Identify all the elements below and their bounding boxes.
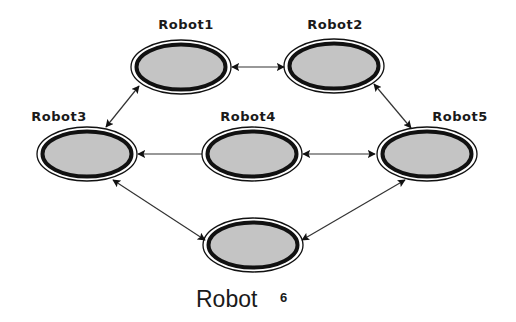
label-robot2: Robot2 — [307, 17, 362, 32]
caption-robot6-number: 6 — [280, 290, 287, 305]
node-robot5 — [377, 127, 477, 181]
robot-network-diagram: Robot1 Robot2 Robot3 Robot4 Robot5 Robot… — [0, 0, 516, 322]
caption-robot6-text: Robot — [196, 286, 258, 312]
edge-robot2-robot5 — [374, 84, 411, 128]
node-robot4 — [202, 127, 302, 181]
node-robot3 — [37, 127, 137, 181]
node-robot2 — [284, 39, 384, 93]
node-robot6 — [203, 218, 303, 272]
label-robot4: Robot4 — [220, 109, 275, 124]
label-robot5: Robot5 — [432, 109, 487, 124]
diagram-svg: Robot1 Robot2 Robot3 Robot4 Robot5 Robot… — [0, 0, 516, 322]
edge-robot5-robot6 — [302, 180, 405, 240]
label-robot1: Robot1 — [158, 17, 213, 32]
label-robot3: Robot3 — [31, 109, 86, 124]
node-robot1 — [131, 40, 231, 94]
edge-robot3-robot6 — [113, 180, 205, 240]
edge-robot1-robot3 — [106, 86, 139, 127]
